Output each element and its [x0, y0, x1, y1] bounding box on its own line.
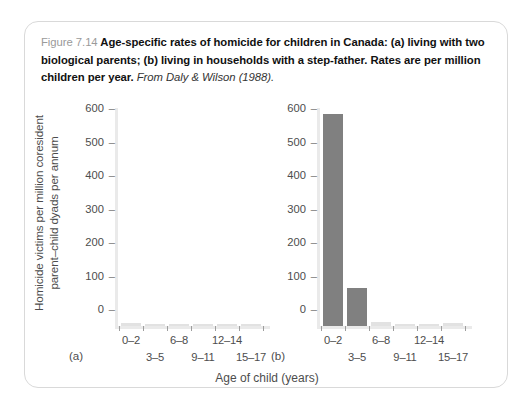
panel-a: (a) 600– 500– 400– 300– 200– 100– 0– — [69, 100, 273, 362]
panel-b-ytick-0: 0– — [271, 303, 317, 315]
panel-a-bar-6-8 — [169, 324, 189, 326]
panel-b-bar-12-14 — [419, 324, 439, 326]
panel-b-ytick-300: 300– — [271, 203, 317, 215]
panel-a-xtick-mark-1 — [143, 326, 144, 331]
panel-b-bar-6-8 — [371, 322, 391, 326]
plots-region: Homicide victims per million coresident … — [25, 100, 509, 389]
x-axis-title: Age of child (years) — [25, 371, 509, 385]
panel-b-ytick-600: 600– — [271, 102, 317, 114]
panel-b-xlabel-9-11: 9–11 — [393, 351, 416, 363]
panel-a-ytick-200: 200– — [69, 236, 115, 248]
panel-a-ytick-500: 500– — [69, 136, 115, 148]
panel-a-ytick-400: 400– — [69, 169, 115, 181]
panel-a-xtick-mark-6 — [263, 326, 264, 331]
panel-b-ytick-400: 400– — [271, 169, 317, 181]
panel-a-xtick-mark-4 — [215, 326, 216, 331]
panel-a-xlabel-15-17: 15–17 — [236, 351, 266, 363]
panel-b-bar-0-2 — [323, 114, 343, 326]
figure-source: From Daly & Wilson (1988). — [137, 71, 274, 83]
panel-b-xlabel-0-2: 0–2 — [324, 334, 342, 346]
panel-b-xtick-mark-3 — [393, 326, 394, 331]
panel-a-xlabel-12-14: 12–14 — [212, 334, 242, 346]
panel-b-xtick-mark-4 — [417, 326, 418, 331]
panel-b-xlabel-12-14: 12–14 — [414, 334, 444, 346]
panel-b-xtick-mark-1 — [345, 326, 346, 331]
panel-a-xlabel-9-11: 9–11 — [191, 351, 214, 363]
panel-a-ytick-600: 600– — [69, 102, 115, 114]
figure-card: Figure 7.14 Age-specific rates of homici… — [24, 21, 508, 388]
panel-a-bar-15-17 — [241, 324, 261, 326]
panel-a-xtick-mark-2 — [167, 326, 168, 331]
panel-a-y-axis-line — [115, 108, 118, 326]
panel-b-x-axis-line — [317, 326, 472, 329]
panel-a-axes: 600– 500– 400– 300– 200– 100– 0– — [115, 108, 267, 326]
panel-b-xtick-mark-0 — [321, 326, 322, 331]
panel-b-xlabel-6-8: 6–8 — [372, 334, 390, 346]
figure-caption: Figure 7.14 Age-specific rates of homici… — [41, 34, 493, 87]
panel-a-tag: (a) — [69, 349, 83, 362]
panel-b-axes: 600– 500– 400– 300– 200– 100– 0– — [317, 108, 469, 326]
panel-a-xtick-mark-3 — [191, 326, 192, 331]
panel-a-xlabel-6-8: 6–8 — [170, 334, 188, 346]
panel-b-bar-9-11 — [395, 324, 415, 326]
panel-a-xlabel-0-2: 0–2 — [122, 334, 140, 346]
panel-b-ytick-100: 100– — [271, 270, 317, 282]
panel-b-xtick-mark-2 — [369, 326, 370, 331]
panel-b-xlabel-15-17: 15–17 — [438, 351, 468, 363]
panel-b-ytick-200: 200– — [271, 236, 317, 248]
panel-a-ytick-0: 0– — [69, 303, 115, 315]
panel-a-bar-0-2 — [121, 323, 141, 326]
panel-a-x-axis-line — [115, 326, 270, 329]
panel-b-xtick-mark-6 — [465, 326, 466, 331]
panel-a-bar-12-14 — [217, 324, 237, 326]
panel-b-xtick-mark-5 — [441, 326, 442, 331]
panel-b-y-axis-line — [317, 108, 320, 326]
panel-a-xtick-mark-0 — [119, 326, 120, 331]
panel-a-xlabel-3-5: 3–5 — [146, 351, 164, 363]
panel-a-xtick-mark-5 — [239, 326, 240, 331]
panel-a-bar-9-11 — [193, 324, 213, 326]
panel-b-xlabel-3-5: 3–5 — [348, 351, 366, 363]
panel-b: (b) 600– 500– 400– 300– 200– 100– 0– — [271, 100, 475, 362]
figure-number: Figure 7.14 — [41, 36, 98, 48]
y-axis-title: Homicide victims per million coresident … — [31, 96, 61, 330]
panel-a-bar-3-5 — [145, 324, 165, 326]
panel-a-ytick-300: 300– — [69, 203, 115, 215]
panel-a-ytick-100: 100– — [69, 270, 115, 282]
panel-b-bar-15-17 — [443, 323, 463, 326]
panel-b-ytick-500: 500– — [271, 136, 317, 148]
panel-b-bar-3-5 — [347, 288, 367, 327]
panel-b-tag: (b) — [271, 349, 285, 362]
